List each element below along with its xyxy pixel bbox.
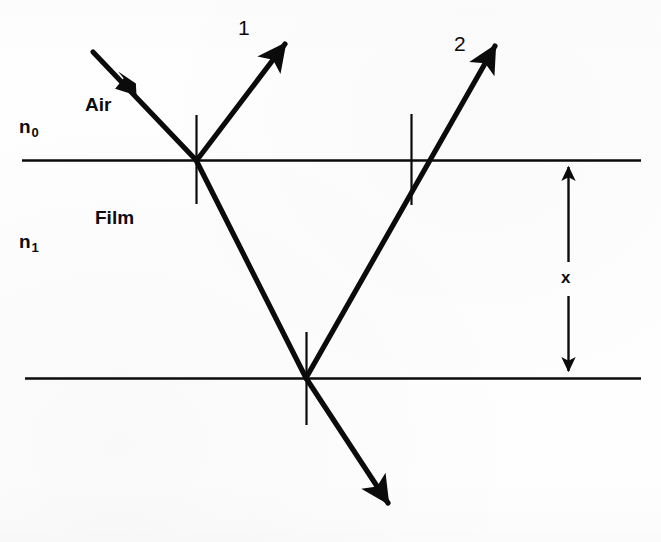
transmitted-ray bbox=[306, 378, 388, 503]
index-symbol-n0: n bbox=[19, 116, 31, 137]
refractive-index-label-n1: n1 bbox=[19, 232, 38, 251]
thickness-label-x: x bbox=[561, 269, 570, 286]
thin-film-interference-figure: 1 2 Air n0 Film n1 x bbox=[0, 0, 661, 542]
index-symbol-n1: n bbox=[19, 231, 31, 252]
reflected-ray-1 bbox=[197, 44, 285, 160]
internally-reflected-ray-2 bbox=[306, 46, 495, 378]
ray-label-2: 2 bbox=[454, 33, 466, 54]
medium-label-air: Air bbox=[85, 95, 111, 114]
medium-label-film: Film bbox=[95, 208, 134, 227]
index-subscript-1: 1 bbox=[32, 240, 39, 255]
refracted-ray-in-film bbox=[196, 160, 306, 378]
refractive-index-label-n0: n0 bbox=[19, 117, 38, 136]
ray-label-1: 1 bbox=[238, 17, 250, 38]
index-subscript-0: 0 bbox=[32, 125, 39, 140]
